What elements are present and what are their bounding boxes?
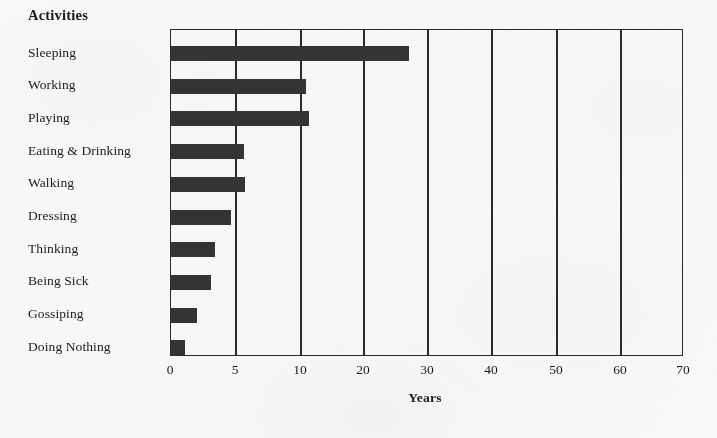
category-label: Working	[28, 77, 76, 92]
x-tick-label: 30	[420, 362, 434, 377]
category-label: Eating & Drinking	[28, 143, 131, 158]
plot-area	[170, 29, 683, 356]
gridline	[427, 30, 429, 355]
x-tick-label: 40	[484, 362, 498, 377]
category-label: Playing	[28, 110, 70, 125]
x-axis-title: Years	[408, 390, 442, 406]
bar	[171, 46, 409, 61]
bar	[171, 242, 215, 257]
category-label: Gossiping	[28, 306, 84, 321]
gridline	[491, 30, 493, 355]
category-label: Being Sick	[28, 273, 89, 288]
category-label: Walking	[28, 175, 74, 190]
bar	[171, 340, 185, 355]
x-tick-label: 50	[549, 362, 563, 377]
category-label: Sleeping	[28, 45, 76, 60]
category-label-column: SleepingWorkingPlayingEating & DrinkingW…	[0, 0, 170, 438]
x-tick-label: 5	[232, 362, 239, 377]
bar	[171, 308, 197, 323]
category-label: Dressing	[28, 208, 77, 223]
x-tick-label: 20	[356, 362, 370, 377]
x-tick-label: 10	[293, 362, 307, 377]
gridline	[363, 30, 365, 355]
gridline	[556, 30, 558, 355]
bar	[171, 210, 231, 225]
category-label: Thinking	[28, 241, 78, 256]
bar	[171, 111, 309, 126]
category-label: Doing Nothing	[28, 339, 111, 354]
gridline	[620, 30, 622, 355]
bar	[171, 177, 245, 192]
x-tick-label: 0	[167, 362, 174, 377]
bar	[171, 275, 211, 290]
x-tick-label: 60	[613, 362, 627, 377]
bar	[171, 79, 306, 94]
x-tick-label: 70	[676, 362, 690, 377]
bar-chart: Activities SleepingWorkingPlayingEating …	[0, 0, 717, 438]
bar	[171, 144, 244, 159]
